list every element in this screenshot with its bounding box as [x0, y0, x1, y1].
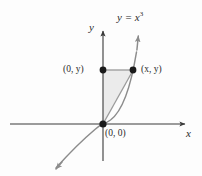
point-0y-label: (0, y): [63, 65, 84, 75]
figure-canvas: [0, 0, 202, 176]
y-axis-label: y: [89, 22, 94, 33]
curve-equation-exponent: 3: [140, 10, 144, 18]
curve-arrow-upper: [137, 36, 138, 50]
cubic-function-inverse-figure: y x y = x3 (0, y) (x, y) (0, 0): [0, 0, 202, 176]
curve-arrow-lower: [56, 162, 62, 169]
point-xy-label: (x, y): [141, 65, 162, 75]
curve-equation-base: y = x: [117, 11, 140, 23]
point-xy-marker: [130, 67, 137, 74]
curve-equation-label: y = x3: [117, 11, 143, 23]
point-0y-marker: [100, 67, 107, 74]
x-axis-label: x: [186, 128, 191, 139]
point-origin-marker: [99, 120, 106, 127]
point-origin-label: (0, 0): [105, 129, 126, 139]
